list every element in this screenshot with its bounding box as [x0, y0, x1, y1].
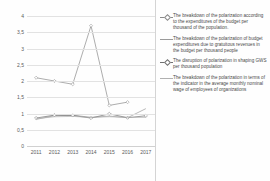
- x-axis-tick-label: 2017: [140, 150, 151, 155]
- y-axis-tick-label: 1: [21, 111, 24, 116]
- gridline: [27, 16, 155, 17]
- data-point-marker: [71, 83, 74, 86]
- gridline: [27, 32, 155, 33]
- y-axis-tick-label: 0,5: [17, 127, 24, 132]
- x-axis-tick-label: 2013: [67, 150, 78, 155]
- legend: The breakdown of the polarization accord…: [158, 0, 270, 181]
- data-point-marker: [144, 114, 147, 117]
- gridline: [27, 130, 155, 131]
- y-axis-tick-label: 3: [21, 46, 24, 51]
- gridline: [27, 114, 155, 115]
- plot-area: 00,511,522,533,5420112012201320142015201…: [27, 16, 155, 146]
- gridline: [27, 97, 155, 98]
- x-axis-tick-label: 2012: [49, 150, 60, 155]
- x-axis-tick-label: 2015: [104, 150, 115, 155]
- x-axis-tick-label: 2014: [85, 150, 96, 155]
- y-axis-tick-label: 2,5: [17, 62, 24, 67]
- legend-item-label: The breakdown of the polarization of bud…: [173, 36, 267, 55]
- y-axis-tick-label: 1,5: [17, 95, 24, 100]
- line-chart: 00,511,522,533,5420112012201320142015201…: [0, 0, 270, 181]
- gridline: [27, 81, 155, 82]
- gridline: [27, 146, 155, 147]
- legend-item[interactable]: The breakdown of the polarization in ter…: [160, 75, 267, 94]
- legend-swatch-icon: [160, 59, 173, 65]
- legend-item-label: The disruption of polarization in shapin…: [173, 58, 267, 70]
- legend-item[interactable]: The disruption of polarization in shapin…: [160, 58, 267, 70]
- legend-item[interactable]: The breakdown of the polarization accord…: [160, 13, 267, 32]
- y-axis-tick-label: 3,5: [17, 30, 24, 35]
- legend-item-label: The breakdown of the polarization accord…: [173, 13, 267, 32]
- plot-column: 00,511,522,533,5420112012201320142015201…: [0, 0, 158, 181]
- y-axis-tick-label: 4: [21, 14, 24, 19]
- data-point-marker: [35, 76, 38, 79]
- data-point-marker: [89, 24, 92, 27]
- legend-swatch-icon: [160, 14, 173, 20]
- gridline: [27, 65, 155, 66]
- gridline: [27, 49, 155, 50]
- y-axis-tick-label: 0: [21, 144, 24, 149]
- legend-item[interactable]: The breakdown of the polarization of bud…: [160, 36, 267, 55]
- y-axis-tick-label: 2: [21, 79, 24, 84]
- x-axis-tick-label: 2011: [31, 150, 42, 155]
- legend-swatch-icon: [160, 76, 173, 82]
- x-axis-tick-label: 2016: [122, 150, 133, 155]
- data-point-marker: [126, 101, 129, 104]
- data-point-marker: [108, 104, 111, 107]
- legend-item-label: The breakdown of the polarization in ter…: [173, 75, 267, 94]
- legend-swatch-icon: [160, 37, 173, 43]
- panel-divider: [155, 0, 156, 181]
